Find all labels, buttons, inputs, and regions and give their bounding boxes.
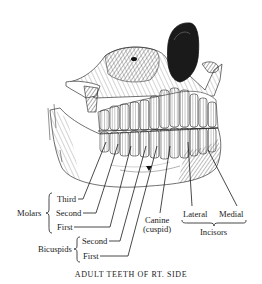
- label-molar-third: Third: [57, 195, 76, 204]
- label-molar-first: First: [57, 223, 73, 232]
- label-incisor-medial: Medial: [219, 210, 243, 219]
- label-canine-alt: (cuspid): [143, 225, 171, 234]
- label-bicuspid-first: First: [83, 252, 99, 261]
- figure-caption: ADULT TEETH OF RT. SIDE: [0, 270, 262, 279]
- label-molar-second: Second: [56, 209, 81, 218]
- diagram-canvas: Molars Third Second First Bicuspids Seco…: [0, 0, 262, 284]
- label-incisor-lateral: Lateral: [183, 210, 207, 219]
- teeth-illustration: [0, 0, 262, 284]
- label-molars: Molars: [17, 209, 41, 218]
- label-bicuspid-second: Second: [82, 237, 107, 246]
- label-bicuspids: Bicuspids: [38, 245, 72, 254]
- label-incisors: Incisors: [200, 228, 227, 237]
